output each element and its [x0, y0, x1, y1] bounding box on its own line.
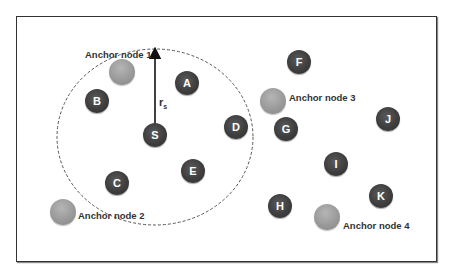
node-k: K: [369, 184, 393, 208]
diagram-overlay: [0, 0, 451, 277]
anchor-node-2: [50, 199, 76, 225]
anchor-node-1: [109, 59, 135, 85]
anchor-node-4: [314, 204, 340, 230]
anchor-node-1-label: Anchor node 1: [85, 49, 152, 60]
anchor-node-2-label: Anchor node 2: [78, 210, 145, 221]
node-b: B: [85, 89, 109, 113]
node-h: H: [268, 194, 292, 218]
node-d: D: [224, 115, 248, 139]
node-f: F: [287, 50, 311, 74]
node-c: C: [105, 171, 129, 195]
node-i: I: [324, 152, 348, 176]
node-e: E: [181, 159, 205, 183]
anchor-node-3-label: Anchor node 3: [289, 92, 356, 103]
radius-label: rs: [159, 96, 167, 110]
node-g: G: [274, 117, 298, 141]
network-diagram: rs SABCDEFGHIJKAnchor node 1Anchor node …: [0, 0, 451, 277]
anchor-node-3: [260, 88, 286, 114]
node-a: A: [175, 71, 199, 95]
anchor-node-4-label: Anchor node 4: [343, 220, 410, 231]
node-j: J: [376, 107, 400, 131]
sensor-node-s: S: [143, 123, 167, 147]
